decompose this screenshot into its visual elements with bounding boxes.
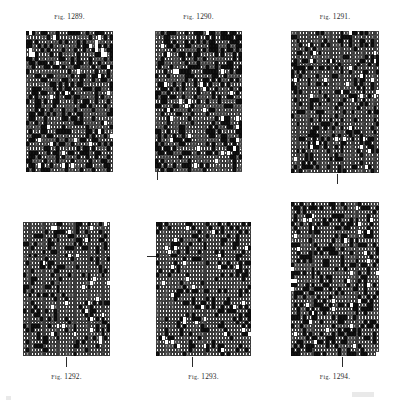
figure-caption-1292: Fig. 1292. — [23, 372, 110, 381]
weave-cell — [239, 168, 242, 172]
caption-prefix: Fig. — [51, 374, 62, 380]
caption-number: 1290. — [196, 12, 213, 21]
registration-tick — [192, 357, 193, 367]
weave-figure-1292 — [23, 222, 110, 356]
weave-grid — [291, 202, 379, 356]
weave-figure-1290 — [155, 31, 242, 172]
weave-grid — [291, 31, 379, 173]
weave-figure-1289 — [26, 31, 113, 172]
weave-cell — [248, 352, 251, 356]
registration-tick — [66, 357, 67, 367]
caption-number: 1291. — [333, 12, 350, 21]
figure-caption-1289: Fig. 1289. — [26, 12, 113, 21]
scan-artifact — [6, 396, 11, 400]
registration-tick — [337, 174, 338, 184]
caption-number: 1294. — [333, 372, 350, 381]
weave-cell — [107, 352, 110, 356]
registration-tick — [147, 256, 156, 257]
figure-caption-1291: Fig. 1291. — [291, 12, 379, 21]
caption-number: 1293. — [201, 372, 218, 381]
weave-grid — [23, 222, 110, 356]
weave-figure-1294 — [291, 202, 379, 356]
weave-cell — [376, 352, 379, 356]
figure-plate: Fig. 1289. Fig. 1290. Fig. 1291. Fig. 12… — [0, 0, 400, 404]
figure-caption-1293: Fig. 1293. — [156, 372, 251, 381]
caption-prefix: Fig. — [320, 374, 331, 380]
caption-prefix: Fig. — [188, 374, 199, 380]
weave-cell — [376, 169, 379, 173]
scan-artifact — [352, 392, 374, 397]
weave-grid — [156, 222, 251, 356]
caption-prefix: Fig. — [183, 14, 194, 20]
figure-caption-1294: Fig. 1294. — [291, 372, 379, 381]
caption-number: 1289. — [67, 12, 84, 21]
weave-grid — [26, 31, 113, 172]
weave-figure-1291 — [291, 31, 379, 173]
registration-tick — [157, 170, 158, 180]
registration-tick — [342, 357, 343, 367]
caption-number: 1292. — [64, 372, 81, 381]
weave-figure-1293 — [156, 222, 251, 356]
weave-grid — [155, 31, 242, 172]
caption-prefix: Fig. — [54, 14, 65, 20]
figure-caption-1290: Fig. 1290. — [155, 12, 242, 21]
weave-cell — [110, 168, 113, 172]
caption-prefix: Fig. — [320, 14, 331, 20]
